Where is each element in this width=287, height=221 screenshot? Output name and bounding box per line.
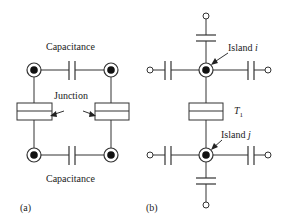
island-node-a-bl <box>27 148 41 162</box>
island-node-a-tl <box>27 63 41 77</box>
arrow-island-i <box>211 58 218 65</box>
terminal-right-j <box>265 152 271 158</box>
terminal-right-i <box>265 67 271 73</box>
junction-right <box>95 103 129 120</box>
terminal-top <box>203 13 209 19</box>
capacitance-label-top: Capacitance <box>46 41 95 52</box>
island-j-label: Island j <box>221 129 251 140</box>
island-j-node <box>199 148 213 162</box>
junction-label: Junction <box>54 90 88 101</box>
island-i-node <box>199 63 213 77</box>
t1-label: T1 <box>234 105 244 119</box>
panel-a: Capacitance Capacitance Junction (a) <box>17 41 129 214</box>
capacitance-label-bottom: Capacitance <box>46 173 95 184</box>
island-node-a-br <box>104 148 118 162</box>
capacitor-bottom-a <box>69 146 75 165</box>
capacitor-top-a <box>69 61 75 80</box>
junction-arrows <box>50 111 96 117</box>
island-node-a-tr <box>104 63 118 77</box>
panel-a-label: (a) <box>20 202 31 214</box>
capacitor-bottom-b <box>196 178 216 184</box>
capacitor-top-b <box>196 35 216 41</box>
panel-b-label: (b) <box>146 202 158 214</box>
terminal-left-j <box>147 152 153 158</box>
terminal-bottom <box>203 202 209 208</box>
junction-left <box>17 103 52 120</box>
josephson-circuit-diagram: Capacitance Capacitance Junction (a) <box>0 0 287 221</box>
panel-b: Island i T1 Island j (b) <box>146 13 271 214</box>
terminal-left-i <box>147 67 153 73</box>
junction-t1 <box>189 103 223 120</box>
island-i-label: Island i <box>228 42 258 53</box>
